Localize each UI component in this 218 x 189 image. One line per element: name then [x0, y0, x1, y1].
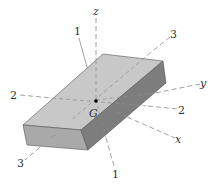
label-z: z	[92, 5, 99, 18]
x-axis-outer	[120, 114, 175, 138]
centroid-point	[94, 99, 98, 103]
block-principal-axes-diagram: z 1 3 y 2 2 G x 3 1	[0, 0, 218, 189]
axis-1-bottom-outer	[106, 138, 114, 166]
label-centroid-g: G	[89, 107, 98, 120]
axis-2-right-outer	[148, 106, 177, 109]
label-axis-2-left: 2	[10, 89, 17, 102]
label-x: x	[175, 133, 182, 146]
label-axis-3-bottom: 3	[17, 157, 24, 170]
label-axis-1-top: 1	[74, 25, 81, 38]
label-y: y	[199, 77, 207, 90]
label-axis-1-bottom: 1	[112, 168, 119, 181]
rectangular-block	[23, 54, 166, 150]
axis-2-left-outer	[20, 95, 52, 98]
label-axis-2-right: 2	[178, 104, 185, 117]
axis-3-top	[150, 37, 170, 53]
label-axis-3-top: 3	[170, 28, 177, 41]
